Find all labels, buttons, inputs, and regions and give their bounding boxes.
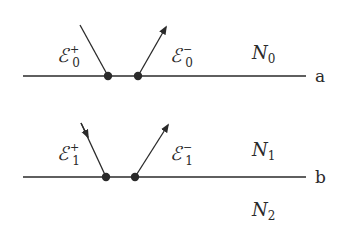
reflected-ray-bottom bbox=[135, 125, 168, 177]
field-label-e0-minus: ℰ−0 bbox=[170, 43, 193, 70]
field-label-e0-plus: ℰ+0 bbox=[57, 43, 80, 70]
point-top-reflected bbox=[134, 72, 142, 80]
diagram-canvas: a b ℰ+0 ℰ−0 ℰ+1 ℰ−1 N0 bbox=[0, 0, 349, 236]
reflected-ray-top bbox=[138, 27, 166, 76]
thin-film-field-diagram: a b ℰ+0 ℰ−0 ℰ+1 ℰ−1 N0 bbox=[0, 0, 349, 236]
point-bottom-incident bbox=[102, 173, 110, 181]
interface-b-label: b bbox=[315, 167, 326, 187]
interface-a-label: a bbox=[315, 66, 325, 86]
point-bottom-reflected bbox=[131, 173, 139, 181]
medium-label-n1: N1 bbox=[251, 139, 275, 163]
medium-label-n2: N2 bbox=[251, 199, 275, 223]
incident-ray-bottom-arrow bbox=[81, 123, 88, 137]
point-top-incident bbox=[104, 72, 112, 80]
incident-ray-top bbox=[80, 25, 108, 76]
field-label-e1-plus: ℰ+1 bbox=[57, 141, 80, 168]
medium-label-n0: N0 bbox=[251, 42, 275, 66]
field-label-e1-minus: ℰ−1 bbox=[170, 141, 193, 168]
